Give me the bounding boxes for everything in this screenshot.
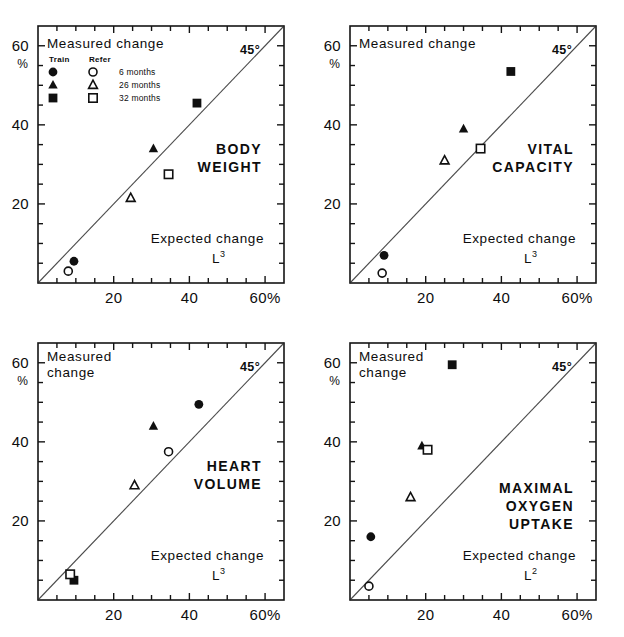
y-tick-label: 60 — [12, 354, 29, 371]
x-axis-exponent-label: L3 — [524, 249, 538, 266]
data-point-open-triangle — [440, 156, 449, 164]
data-point-filled-triangle — [459, 124, 468, 133]
y-axis-unit: % — [329, 57, 340, 71]
x-tick-label: 40 — [493, 606, 510, 623]
legend-marker-train-filled-circle — [49, 68, 58, 77]
data-point-filled-circle — [194, 400, 203, 409]
data-point-filled-square — [506, 67, 515, 76]
y-tick-label: 40 — [324, 116, 341, 133]
legend-marker-train-filled-triangle — [48, 80, 57, 89]
data-point-open-square — [66, 570, 74, 578]
data-point-filled-circle — [380, 251, 389, 260]
x-axis-exponent-label: L2 — [524, 566, 538, 583]
reference-line-label: 45° — [240, 360, 260, 374]
panel-title: MAXIMALOXYGENUPTAKE — [499, 480, 574, 532]
panel-title: VITALCAPACITY — [492, 141, 574, 175]
x-axis-title: Expected change — [463, 231, 576, 246]
data-point-filled-square — [193, 99, 202, 108]
y-tick-label: 60 — [12, 37, 29, 54]
legend-marker-refer-open-circle — [89, 68, 97, 76]
x-tick-label: 40 — [181, 606, 198, 623]
y-axis-unit: % — [17, 374, 28, 388]
panel-title: HEARTVOLUME — [194, 458, 262, 492]
y-tick-label: 20 — [324, 195, 341, 212]
data-point-filled-triangle — [149, 144, 158, 153]
x-axis-title: Expected change — [463, 548, 576, 563]
y-tick-label: 60 — [324, 354, 341, 371]
y-tick-label: 40 — [324, 433, 341, 450]
y-tick-label: 40 — [12, 433, 29, 450]
panel-vital-capacity: 45°204060%204060%Measured changeExpected… — [324, 26, 596, 306]
legend-item-label: 6 months — [119, 67, 156, 77]
figure-canvas: 45°204060%204060%Measured changeExpected… — [0, 0, 624, 637]
data-point-filled-square — [448, 360, 457, 369]
data-point-filled-triangle — [149, 421, 158, 430]
panel-title: BODYWEIGHT — [198, 141, 262, 175]
figure-four-panel-scatter: 45°204060%204060%Measured changeExpected… — [0, 0, 624, 637]
y-axis-title: Measured change — [359, 36, 476, 51]
legend-marker-refer-open-square — [89, 94, 97, 102]
x-tick-label: 60% — [250, 606, 281, 623]
data-point-open-triangle — [406, 492, 415, 500]
panel-body-weight: 45°204060%204060%Measured changeExpected… — [12, 26, 284, 306]
y-tick-label: 20 — [12, 512, 29, 529]
y-axis-unit: % — [17, 57, 28, 71]
x-tick-label: 20 — [105, 606, 122, 623]
y-tick-label: 20 — [324, 512, 341, 529]
x-tick-label: 40 — [493, 289, 510, 306]
x-tick-label: 60% — [250, 289, 281, 306]
data-markers — [365, 360, 457, 590]
reference-line-label: 45° — [240, 43, 260, 57]
reference-line-label: 45° — [552, 43, 572, 57]
x-axis-exponent-label: L3 — [212, 566, 226, 583]
y-axis-title: Measuredchange — [47, 349, 112, 380]
y-tick-label: 40 — [12, 116, 29, 133]
x-tick-label: 60% — [562, 289, 593, 306]
x-tick-label: 20 — [105, 289, 122, 306]
legend-marker-train-filled-square — [49, 94, 58, 103]
x-axis-title: Expected change — [151, 231, 264, 246]
reference-line-label: 45° — [552, 360, 572, 374]
legend-item-label: 26 months — [119, 80, 161, 90]
legend-item-label: 32 months — [119, 93, 161, 103]
legend-header-refer: Refer — [89, 55, 111, 64]
data-point-open-square — [164, 170, 172, 178]
data-point-open-circle — [378, 269, 386, 277]
data-point-open-triangle — [130, 481, 139, 489]
data-point-open-square — [423, 446, 431, 454]
x-axis-exponent-label: L3 — [212, 249, 226, 266]
data-point-open-circle — [365, 582, 373, 590]
panel-maximal-oxygen-uptake: 45°204060%204060%MeasuredchangeExpected … — [324, 343, 596, 623]
y-tick-label: 20 — [12, 195, 29, 212]
x-tick-label: 20 — [417, 606, 434, 623]
x-tick-label: 40 — [181, 289, 198, 306]
reference-line-45deg-faint — [403, 77, 547, 227]
y-axis-title: Measured change — [47, 36, 164, 51]
y-axis-title: Measuredchange — [359, 349, 424, 380]
x-tick-label: 60% — [562, 606, 593, 623]
data-markers — [64, 99, 201, 275]
data-point-open-square — [476, 144, 484, 152]
legend-header-train: Train — [49, 55, 70, 64]
y-axis-unit: % — [329, 374, 340, 388]
legend-marker-refer-open-triangle — [89, 80, 98, 88]
x-axis-title: Expected change — [151, 548, 264, 563]
x-tick-label: 20 — [417, 289, 434, 306]
data-point-open-triangle — [126, 193, 135, 201]
y-tick-label: 60 — [324, 37, 341, 54]
legend: TrainRefer6 months26 months32 months — [48, 55, 160, 103]
panel-heart-volume: 45°204060%204060%MeasuredchangeExpected … — [12, 343, 284, 623]
data-point-open-circle — [165, 448, 173, 456]
data-point-filled-circle — [366, 532, 375, 541]
data-point-open-circle — [64, 267, 72, 275]
data-point-filled-circle — [70, 257, 79, 266]
